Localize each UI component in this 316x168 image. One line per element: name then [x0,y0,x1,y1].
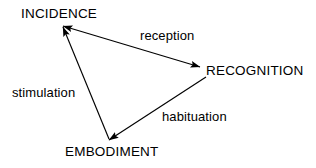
node-label-recognition: RECOGNITION [206,64,303,78]
diagram-edges-layer [0,0,316,168]
node-label-incidence: INCIDENCE [21,7,97,21]
edge-label-stimulation: stimulation [12,86,75,99]
diagram-canvas: INCIDENCE RECOGNITION EMBODIMENT recepti… [0,0,316,168]
edge-label-habituation: habituation [162,110,227,123]
edge-line-stimulation [63,27,109,139]
node-label-embodiment: EMBODIMENT [65,145,159,159]
edge-label-reception: reception [140,29,194,42]
